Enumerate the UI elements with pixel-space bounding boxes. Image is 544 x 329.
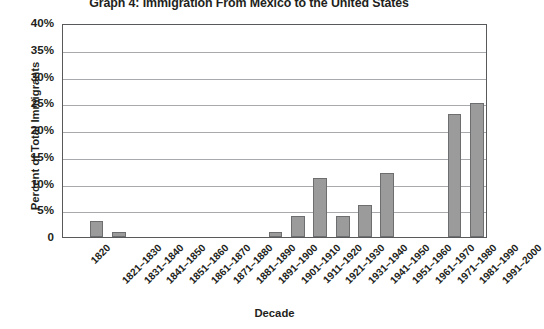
x-tick-label: 1820 (89, 242, 113, 266)
x-axis-title: Decade (62, 307, 487, 319)
